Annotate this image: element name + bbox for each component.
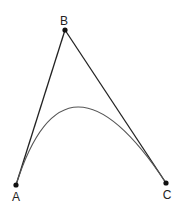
bezier-diagram: A B C xyxy=(0,0,181,208)
segment-ab xyxy=(16,30,65,185)
point-a xyxy=(13,182,18,187)
point-b xyxy=(62,27,67,32)
bezier-curve xyxy=(16,107,166,185)
label-c: C xyxy=(163,188,172,202)
label-b: B xyxy=(60,14,68,28)
point-c xyxy=(163,180,168,185)
label-a: A xyxy=(12,190,20,204)
